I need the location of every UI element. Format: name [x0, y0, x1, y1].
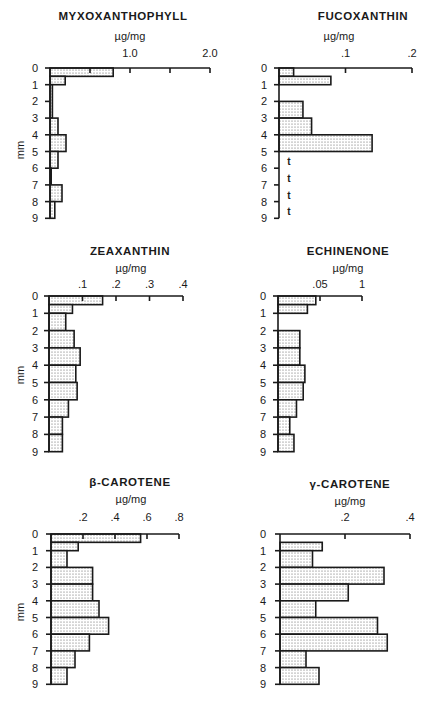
bar-depth-0.5-1: [50, 76, 65, 84]
y-tick-label: 9: [260, 678, 266, 690]
x-tick-label: .2: [111, 278, 120, 290]
bar-depth-2-3: [51, 567, 93, 584]
x-tick-label: .4: [178, 278, 187, 290]
bar-depth-7-8: [50, 185, 62, 202]
y-tick-label: 5: [32, 146, 38, 158]
x-axis-unit-label: µg/mg: [116, 493, 147, 505]
x-axis-unit-label: µg/mg: [116, 262, 147, 274]
bar-depth-4-5: [279, 135, 372, 152]
y-tick-label: 4: [260, 595, 266, 607]
x-tick-label: 1.0: [122, 47, 137, 59]
y-tick-label: 0: [261, 62, 267, 74]
y-tick-label: 9: [260, 446, 266, 458]
y-tick-label: 6: [260, 628, 266, 640]
y-tick-label: 9: [32, 678, 38, 690]
bar-depth-4-5: [49, 365, 76, 382]
bar-depth-3-4: [49, 348, 80, 365]
bar-depth-7-8: [51, 651, 75, 668]
y-tick-label: 0: [260, 290, 266, 302]
y-tick-label: 4: [260, 359, 266, 371]
y-tick-label: 2: [32, 95, 38, 107]
y-tick-label: 2: [261, 95, 267, 107]
y-tick-label: 0: [260, 528, 266, 540]
y-tick-label: 3: [32, 112, 38, 124]
y-tick-label: 6: [32, 628, 38, 640]
bar-depth-0-0.5: [279, 68, 294, 76]
y-tick-label: 5: [261, 146, 267, 158]
bar-depth-6-7: [49, 400, 68, 417]
y-tick-label: 2: [32, 561, 38, 573]
bar-depth-8-9: [49, 434, 62, 451]
y-tick-label: 7: [260, 645, 266, 657]
x-tick-label: .3: [145, 278, 154, 290]
bar-depth-4-5: [278, 365, 305, 382]
x-axis-unit-label: µg/mg: [324, 30, 355, 42]
y-tick-label: 8: [261, 196, 267, 208]
y-tick-label: 7: [261, 179, 267, 191]
y-tick-label: 3: [261, 112, 267, 124]
y-tick-label: 3: [260, 578, 266, 590]
bar-depth-2-3: [49, 331, 74, 348]
x-tick-label: .2: [340, 511, 349, 523]
x-tick-label: 2.0: [202, 47, 217, 59]
x-axis-unit-label: µg/mg: [333, 262, 364, 274]
chart-title: ZEAXANTHIN: [90, 245, 170, 257]
x-axis-unit-label: µg/mg: [115, 30, 146, 42]
y-tick-label: 9: [261, 212, 267, 224]
bar-depth-7-8: [280, 651, 306, 668]
bar-depth-8-9: [278, 434, 294, 451]
y-tick-label: 8: [260, 428, 266, 440]
y-tick-label: 8: [32, 662, 38, 674]
y-tick-label: 4: [32, 359, 38, 371]
trace-marker: t: [287, 206, 291, 217]
x-tick-label: .4: [405, 511, 414, 523]
x-tick-label: .1: [341, 47, 350, 59]
bar-depth-0-0.5: [49, 296, 103, 305]
y-tick-label: 7: [260, 411, 266, 423]
y-tick-label: 5: [32, 612, 38, 624]
y-tick-label: 5: [260, 612, 266, 624]
bar-depth-5-6: [49, 383, 77, 400]
y-tick-label: 6: [32, 162, 38, 174]
bar-depth-5-6: [278, 383, 303, 400]
x-tick-label: .4: [110, 511, 119, 523]
chart-title: β-CAROTENE: [89, 476, 170, 488]
y-tick-label: 9: [32, 212, 38, 224]
bar-depth-3-4: [279, 118, 312, 135]
y-tick-label: 9: [32, 446, 38, 458]
chart-title: ECHINENONE: [307, 245, 390, 257]
y-tick-label: 3: [260, 342, 266, 354]
y-tick-label: 1: [261, 79, 267, 91]
y-tick-label: 7: [32, 645, 38, 657]
y-tick-label: 1: [32, 307, 38, 319]
y-tick-label: 3: [32, 578, 38, 590]
bar-depth-1-2: [280, 551, 313, 568]
bar-depth-0.5-1: [278, 305, 307, 314]
trace-marker: t: [287, 156, 291, 167]
x-tick-label: .1: [78, 278, 87, 290]
y-axis-label: mm: [14, 603, 26, 621]
bar-depth-0.5-1: [280, 542, 322, 550]
x-tick-label: .6: [142, 511, 151, 523]
y-tick-label: 5: [260, 377, 266, 389]
bar-depth-6-7: [278, 400, 296, 417]
y-tick-label: 3: [32, 342, 38, 354]
bar-depth-0.5-1: [279, 76, 331, 84]
bar-depth-7-8: [49, 417, 62, 434]
bar-depth-1-2: [51, 551, 67, 568]
bar-depth-0-0.5: [50, 68, 113, 76]
bar-depth-4-5: [280, 601, 316, 618]
bar-depth-3-4: [50, 118, 58, 135]
chart-title: MYXOXANTHOPHYLL: [58, 10, 187, 22]
trace-marker: t: [287, 173, 291, 184]
bar-depth-2-3: [278, 331, 300, 348]
x-tick-label: .2: [78, 511, 87, 523]
y-tick-label: 0: [32, 290, 38, 302]
bar-depth-6-7: [51, 634, 89, 651]
y-tick-label: 0: [32, 62, 38, 74]
chart-title: FUCOXANTHIN: [318, 10, 408, 22]
y-tick-label: 7: [32, 179, 38, 191]
x-tick-label: .05: [312, 278, 327, 290]
y-tick-label: 1: [32, 79, 38, 91]
y-tick-label: 5: [32, 377, 38, 389]
